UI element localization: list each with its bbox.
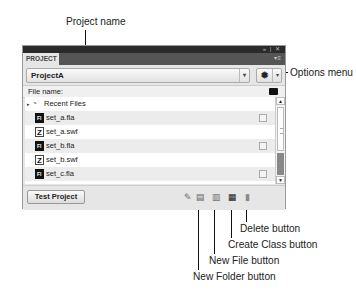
options-menu-button[interactable]: ✹ ▾ [256,68,282,83]
gear-icon: ✹ [260,69,269,82]
recent-files-label: Recent Files [44,97,86,111]
chevron-down-icon[interactable]: ▾ [239,69,249,82]
file-name: set_c.fla [46,167,74,181]
list-item[interactable]: set_b.swf [25,153,275,167]
publish-checkbox[interactable] [259,170,267,178]
callout-new-file-button: New File button [209,254,279,266]
grip-icon [280,128,283,134]
scroll-track[interactable] [277,153,284,175]
new-folder-button[interactable]: ▤ [195,191,205,203]
edit-icon[interactable]: ✎ [183,191,193,203]
test-project-button[interactable]: Test Project [27,190,85,204]
fla-file-icon [35,113,44,123]
chevron-down-icon[interactable]: ▾ [272,69,281,82]
file-list: ▸ ◔ Recent Files set_a.fla set_a.swf set… [25,97,275,184]
swf-file-icon [35,127,44,137]
new-file-button[interactable]: ▥ [211,191,221,203]
panel-titlebar[interactable]: » | ✕ [23,46,285,53]
recent-files-item[interactable]: ▸ ◔ Recent Files [25,97,275,111]
panel-tab-row: PROJECT ▾≡ [23,53,285,65]
callout-options-menu: Options menu [290,66,353,78]
fla-file-icon [35,141,44,151]
panel-footer: Test Project ✎ ▤ ▥ ▦ ▮ [23,185,285,210]
project-select[interactable]: ProjectA ▾ [26,68,250,83]
panel-window-controls[interactable]: » | ✕ [263,45,281,52]
panel-menu-icon[interactable]: ▾≡ [274,54,281,61]
list-item[interactable]: set_a.swf [25,125,275,139]
publish-checkbox[interactable] [259,114,267,122]
list-item[interactable]: set_c.fla [25,167,275,181]
tab-project[interactable]: PROJECT [23,53,59,65]
file-name: set_a.swf [46,125,78,139]
scroll-down-arrow-icon[interactable]: ▼ [276,176,285,184]
project-name: ProjectA [31,71,64,80]
list-item[interactable]: set_b.fla [25,139,275,153]
scroll-up-arrow-icon[interactable]: ▲ [276,97,285,105]
callout-delete-button: Delete button [240,222,300,234]
expand-arrow-icon[interactable]: ▸ [27,97,30,111]
create-class-button[interactable]: ▦ [227,191,237,203]
list-item[interactable]: set_a.fla [25,111,275,125]
file-name: set_a.fla [46,111,74,125]
fla-file-icon [35,169,44,179]
file-name: set_b.swf [46,153,78,167]
recent-files-icon: ◔ [32,99,37,109]
publish-checkbox[interactable] [259,142,267,150]
callout-create-class-button: Create Class button [228,238,317,250]
file-name-label: File name: [28,86,63,97]
project-row: ProjectA ▾ ✹ ▾ [26,68,282,83]
vertical-scrollbar[interactable]: ▲ ▼ [275,97,285,184]
callout-project-name: Project name [66,15,126,27]
swf-file-icon [35,155,44,165]
scroll-thumb[interactable] [277,107,284,151]
file-name: set_b.fla [46,139,74,153]
callout-new-folder-button: New Folder button [193,270,276,282]
delete-button[interactable]: ▮ [242,191,252,203]
book-icon[interactable] [269,88,278,95]
project-panel: » | ✕ PROJECT ▾≡ ProjectA ▾ ✹ ▾ File nam… [22,45,286,209]
